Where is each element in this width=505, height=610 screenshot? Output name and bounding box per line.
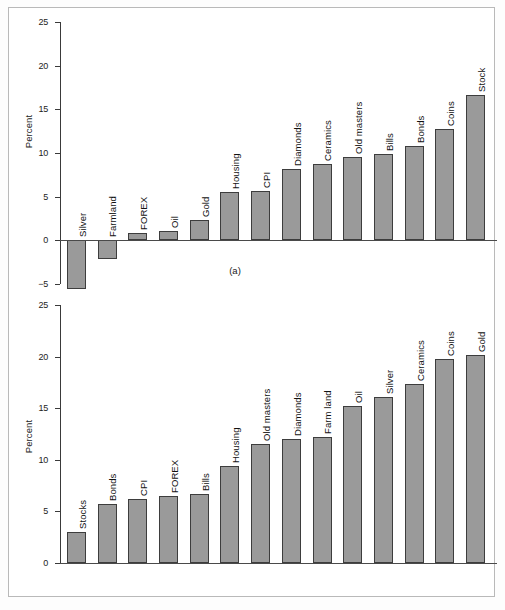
bar-group-a: Old masters	[337, 22, 368, 284]
bar-group-b: CPI	[122, 305, 153, 563]
y-tick-label-b: 15	[38, 403, 48, 413]
bar-category-label: Farm land	[322, 390, 333, 434]
bar[interactable]	[374, 397, 393, 563]
bar-group-a: FOREX	[122, 22, 153, 284]
bar-group-a: Ceramics	[307, 22, 338, 284]
bar[interactable]	[343, 406, 362, 563]
bar-category-label: Ceramics	[415, 341, 426, 382]
y-tick-label-a: 20	[38, 61, 48, 71]
bar[interactable]	[98, 240, 117, 258]
chart-panel-a: Percent 2520151050−5 SilverFarmlandFOREX…	[0, 12, 505, 297]
bar-group-b: Bonds	[92, 305, 123, 563]
bar-group-b: Bills	[184, 305, 215, 563]
y-tick-label-b: 10	[38, 455, 48, 465]
bar[interactable]	[435, 359, 454, 563]
bar[interactable]	[128, 233, 147, 240]
bar-group-a: Farmland	[92, 22, 123, 284]
bar[interactable]	[313, 437, 332, 563]
bar-group-a: Gold	[184, 22, 215, 284]
bar-category-label: Housing	[230, 427, 241, 463]
bar-group-a: Silver	[61, 22, 92, 284]
bar-category-label: Housing	[230, 154, 241, 190]
bar-category-label: Diamonds	[292, 393, 303, 437]
y-tick-label-a: −5	[38, 279, 48, 289]
bar[interactable]	[220, 192, 239, 240]
bar-group-b: Stocks	[61, 305, 92, 563]
bar-group-b: Old masters	[245, 305, 276, 563]
bar-group-a: Bonds	[399, 22, 430, 284]
y-axis-title-a: Percent	[23, 115, 34, 148]
bar-category-label: FOREX	[138, 197, 149, 230]
bar[interactable]	[67, 240, 86, 289]
zero-baseline-b	[60, 563, 497, 564]
bar-category-label: Ceramics	[322, 120, 333, 161]
y-tick-b: 20	[55, 357, 60, 358]
y-tick-b: 10	[55, 460, 60, 461]
bar-group-a: Housing	[215, 22, 246, 284]
y-tick-b: 15	[55, 408, 60, 409]
bar-group-a: Coins	[430, 22, 461, 284]
bar[interactable]	[220, 466, 239, 563]
y-tick-label-b: 0	[43, 558, 48, 568]
bar[interactable]	[343, 157, 362, 240]
y-tick-label-b: 25	[38, 300, 48, 310]
bar-category-label: Bills	[200, 473, 211, 491]
bar-category-label: Stock	[476, 68, 487, 92]
bar[interactable]	[190, 494, 209, 563]
bar[interactable]	[374, 154, 393, 240]
bar-group-b: Housing	[215, 305, 246, 563]
bar-category-label: Coins	[445, 331, 456, 356]
bar-group-b: Farm land	[307, 305, 338, 563]
y-tick-a: 25	[55, 22, 60, 23]
bar[interactable]	[159, 231, 178, 241]
bar[interactable]	[435, 129, 454, 240]
panel-caption-a: (a)	[205, 265, 265, 276]
bar-series-b: StocksBondsCPIFOREXBillsHousingOld maste…	[61, 305, 491, 563]
bar-category-label: FOREX	[169, 460, 180, 493]
bar[interactable]	[405, 146, 424, 240]
bar-group-b: Silver	[368, 305, 399, 563]
bar-group-a: CPI	[245, 22, 276, 284]
y-tick-label-b: 5	[43, 506, 48, 516]
y-tick-b: 5	[55, 511, 60, 512]
bar-series-a: SilverFarmlandFOREXOilGoldHousingCPIDiam…	[61, 22, 491, 284]
bar[interactable]	[405, 384, 424, 563]
bar[interactable]	[466, 95, 485, 240]
bar-category-label: Silver	[384, 369, 395, 393]
bar-group-b: Oil	[337, 305, 368, 563]
bar-category-label: Stocks	[77, 500, 88, 529]
bar[interactable]	[190, 220, 209, 240]
bar-category-label: Coins	[445, 102, 456, 127]
bar[interactable]	[251, 191, 270, 241]
bar-category-label: Old masters	[261, 389, 272, 441]
bar-category-label: CPI	[138, 480, 149, 496]
zero-baseline-a	[60, 240, 497, 241]
bar-category-label: Old masters	[353, 102, 364, 154]
bar-category-label: Bonds	[107, 474, 118, 501]
chart-panel-b: Percent 2520151050 StocksBondsCPIFOREXBi…	[0, 300, 505, 600]
y-tick-label-a: 5	[43, 192, 48, 202]
figure-root: Percent 2520151050−5 SilverFarmlandFOREX…	[0, 0, 505, 610]
bar-category-label: Gold	[476, 331, 487, 351]
bar-category-label: Gold	[200, 197, 211, 217]
bar[interactable]	[128, 499, 147, 563]
bar[interactable]	[251, 444, 270, 563]
bar[interactable]	[98, 504, 117, 563]
y-tick-a: 5	[55, 197, 60, 198]
bar-category-label: Farmland	[107, 196, 118, 237]
bar-group-b: Diamonds	[276, 305, 307, 563]
bar[interactable]	[313, 164, 332, 240]
bar-group-b: FOREX	[153, 305, 184, 563]
bar[interactable]	[159, 496, 178, 563]
bar-category-label: Oil	[353, 391, 364, 403]
y-tick-b: 25	[55, 305, 60, 306]
y-tick-label-a: 10	[38, 148, 48, 158]
y-tick-label-a: 25	[38, 17, 48, 27]
bar-group-a: Oil	[153, 22, 184, 284]
bar[interactable]	[282, 169, 301, 241]
bar-category-label: Diamonds	[292, 122, 303, 166]
bar[interactable]	[67, 532, 86, 563]
bar[interactable]	[282, 439, 301, 563]
bar[interactable]	[466, 355, 485, 563]
y-tick-a: 15	[55, 109, 60, 110]
